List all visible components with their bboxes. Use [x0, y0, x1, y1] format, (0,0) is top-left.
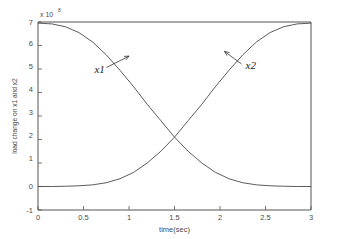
annotation-x1: x1	[93, 56, 129, 74]
chart-plot-area: x 10 8 7 6 5 4 3 2 1 0 -1	[0, 0, 340, 239]
x-tick-label-2: 2	[218, 213, 222, 222]
x-axis-title: time(sec)	[159, 225, 190, 234]
y-tick-label-1: 1	[29, 154, 33, 163]
y-tick-label-0: 0	[29, 182, 33, 191]
y-tick-label-2: 2	[29, 131, 33, 140]
chart-figure: x 10 8 7 6 5 4 3 2 1 0 -1	[0, 0, 340, 239]
x-tick-label-1p5: 1.5	[169, 213, 179, 222]
annotation-x2: x2	[225, 51, 257, 71]
y-tick-label-4: 4	[29, 85, 33, 94]
x-tick-label-2p5: 2.5	[260, 213, 270, 222]
series-curve-x1	[38, 23, 311, 186]
y-tick-label-6: 6	[29, 39, 33, 48]
y-axis-exponent-power: 8	[58, 7, 61, 13]
x-tick-label-0: 0	[36, 213, 40, 222]
y-axis-ticks	[38, 22, 42, 210]
series-curve-x2	[38, 23, 311, 186]
x-axis-ticks	[38, 206, 311, 210]
x-tick-label-1: 1	[127, 213, 131, 222]
y-axis-title: load change on x1 and x2	[11, 78, 19, 154]
x-tick-label-0p5: 0.5	[78, 213, 88, 222]
y-tick-label-7: 7	[29, 18, 33, 27]
y-tick-label-3: 3	[29, 108, 33, 117]
x-tick-label-3: 3	[309, 213, 313, 222]
y-tick-label-5: 5	[29, 62, 33, 71]
annotation-x1-label: x1	[93, 63, 104, 75]
y-axis-exponent: x 10	[40, 11, 53, 18]
annotation-x2-label: x2	[245, 59, 257, 71]
y-tick-label-neg1: -1	[26, 206, 33, 215]
